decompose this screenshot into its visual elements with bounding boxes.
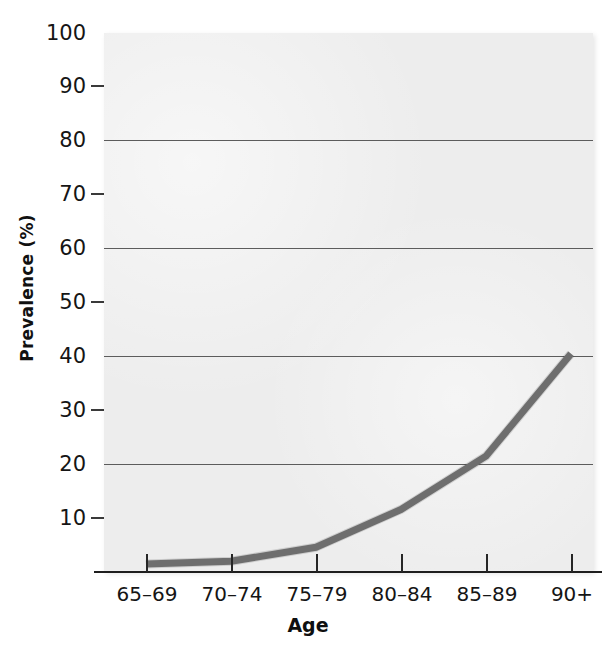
y-axis-tick-labels: 100 90 80 70 60 50 40 30 20 10 (24, 0, 86, 651)
x-tick-mark-80-84 (401, 554, 403, 572)
y-tick-label-70: 70 (24, 184, 86, 205)
x-tick-mark-90-plus (571, 554, 573, 572)
series-prevalence (104, 33, 593, 572)
x-axis-title: Age (0, 614, 616, 636)
y-tick-label-80: 80 (24, 130, 86, 151)
x-tick-label-90-plus: 90+ (517, 582, 616, 606)
series-line-shadow (146, 354, 571, 564)
y-tick-label-40: 40 (24, 346, 86, 367)
y-tick-label-60: 60 (24, 238, 86, 259)
y-tick-label-20: 20 (24, 454, 86, 475)
x-tick-mark-75-79 (316, 554, 318, 572)
plot-area (104, 33, 593, 572)
x-tick-mark-85-89 (486, 554, 488, 572)
y-tick-label-30: 30 (24, 400, 86, 421)
x-tick-mark-65-69 (146, 554, 148, 572)
y-tick-label-90: 90 (24, 76, 86, 97)
x-axis-line (94, 571, 602, 573)
y-tick-label-50: 50 (24, 292, 86, 313)
chart-figure: Prevalence (%) 100 90 80 70 60 50 40 30 … (0, 0, 616, 651)
x-tick-mark-70-74 (231, 554, 233, 572)
y-tick-label-100: 100 (24, 23, 86, 44)
y-tick-label-10: 10 (24, 508, 86, 529)
